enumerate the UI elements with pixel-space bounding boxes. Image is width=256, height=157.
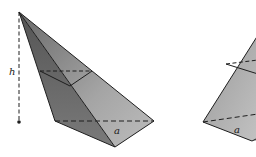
pyramids-diagram: h a a: [0, 0, 256, 157]
left-pyramid: h a: [9, 12, 154, 147]
right-pyramid: a: [203, 35, 256, 141]
right-base-edge-label: a: [234, 124, 240, 135]
left-base-edge-label: a: [114, 125, 120, 136]
height-foot-dot: [17, 120, 21, 124]
height-label: h: [9, 66, 15, 77]
